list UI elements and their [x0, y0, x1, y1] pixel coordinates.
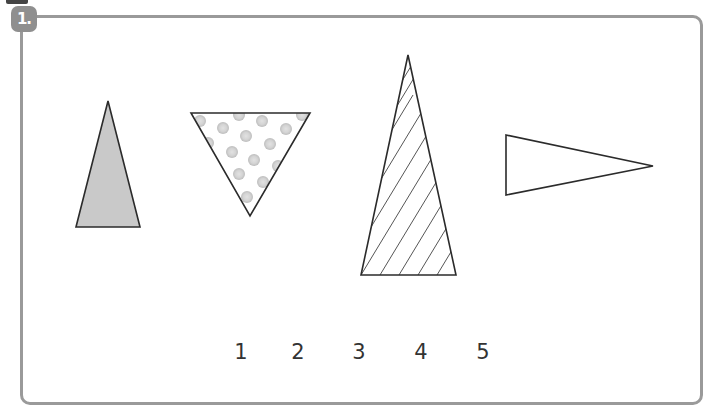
number-label-2: 2: [291, 340, 304, 364]
number-label-3: 3: [352, 340, 365, 364]
number-label-4: 4: [414, 340, 427, 364]
triangle-dotted-inverted: [191, 109, 310, 216]
number-labels-row: 1 2 3 4 5: [0, 340, 709, 370]
triangle-hatched-tall: [266, 35, 546, 275]
triangle-gray-filled: [76, 101, 140, 227]
number-label-1: 1: [234, 340, 247, 364]
number-label-5: 5: [476, 340, 489, 364]
triangle-blank-right: [506, 135, 653, 195]
